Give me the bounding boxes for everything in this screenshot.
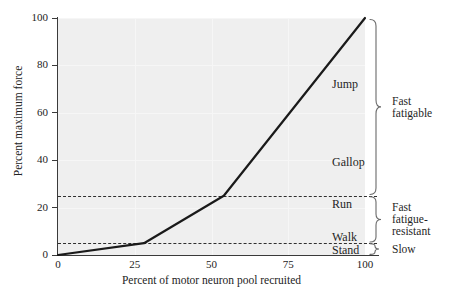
y-tick-label-60: 60 xyxy=(37,107,48,118)
y-tick-label-100: 100 xyxy=(32,12,49,23)
gridline-vertical xyxy=(212,18,213,255)
bracket-label-line: resistant xyxy=(392,225,430,237)
bracket-label-slow: Slow xyxy=(392,243,416,255)
y-axis-title: Percent maximum force xyxy=(12,41,24,201)
y-tick-label-20: 20 xyxy=(37,202,48,213)
bracket-label-fast-fatigable: Fast fatigable xyxy=(392,95,432,119)
bracket-label-line: Fast xyxy=(392,95,432,107)
y-tick-mark xyxy=(52,160,57,161)
x-axis-line xyxy=(57,255,379,256)
x-tick-label-25: 25 xyxy=(115,258,155,270)
y-tick-mark xyxy=(52,65,57,66)
annotation-run: Run xyxy=(332,198,352,211)
plot-area xyxy=(58,18,365,255)
category-brackets xyxy=(368,0,392,291)
bracket-label-line: Fast xyxy=(392,201,430,213)
y-tick-mark xyxy=(52,207,57,208)
y-axis-line xyxy=(57,17,58,256)
motor-unit-recruitment-chart: 100 80 60 40 20 0 0 25 50 75 100 Percent… xyxy=(0,0,467,291)
threshold-line-25-percent xyxy=(58,196,377,197)
bracket-label-line: Slow xyxy=(392,243,416,255)
bracket-label-fast-fatigue-resistant: Fast fatigue- resistant xyxy=(392,201,430,238)
x-tick-label-50: 50 xyxy=(192,258,232,270)
annotation-stand: Stand xyxy=(332,244,359,257)
annotation-jump: Jump xyxy=(332,78,358,91)
y-tick-label-80: 80 xyxy=(37,59,48,70)
bracket-label-line: fatigable xyxy=(392,107,432,119)
x-tick-label-0: 0 xyxy=(38,258,78,270)
y-tick-mark xyxy=(52,112,57,113)
gridline-vertical xyxy=(135,18,136,255)
threshold-line-5-percent xyxy=(58,243,377,244)
x-tick-label-75: 75 xyxy=(268,258,308,270)
y-tick-mark xyxy=(52,18,57,19)
bracket-label-line: fatigue- xyxy=(392,213,430,225)
gridline-vertical xyxy=(288,18,289,255)
x-axis-title: Percent of motor neuron pool recruited xyxy=(58,274,365,287)
y-tick-mark xyxy=(52,255,57,256)
y-tick-label-40: 40 xyxy=(37,154,48,165)
annotation-gallop: Gallop xyxy=(332,156,365,169)
